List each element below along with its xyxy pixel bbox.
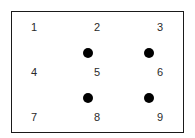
- number-4: 4: [31, 67, 37, 78]
- dot-upper-right: [144, 48, 154, 58]
- dot-upper-left: [83, 48, 93, 58]
- dot-lower-left: [83, 93, 93, 103]
- number-2: 2: [94, 22, 100, 33]
- dot-lower-right: [144, 93, 154, 103]
- number-5: 5: [94, 67, 100, 78]
- number-9: 9: [157, 112, 163, 123]
- number-1: 1: [31, 22, 37, 33]
- number-3: 3: [157, 22, 163, 33]
- number-7: 7: [31, 112, 37, 123]
- number-8: 8: [94, 112, 100, 123]
- number-6: 6: [157, 67, 163, 78]
